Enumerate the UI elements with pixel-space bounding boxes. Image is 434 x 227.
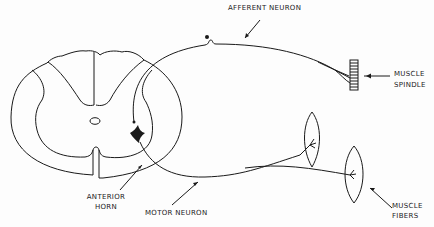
muscle-fiber-1 [305,112,320,167]
anterior-horn-label-line1: ANTERIOR [80,193,132,202]
spindle-stripes [350,63,358,87]
muscle-fibers-label-line2: FIBERS [392,212,418,221]
dorsal-horn-left [48,62,94,105]
muscle-spindle-label-line2: SPINDLE [394,81,426,90]
motor-neuron-label: MOTOR NEURON [145,209,207,218]
motor-neuron-path [140,142,310,177]
diagram-drawing [0,0,434,227]
afferent-neuron-path [133,40,350,122]
afferent-neuron-label: AFFERENT NEURON [228,4,301,13]
motor-neuron-cell-body [130,125,145,143]
central-canal [90,118,100,125]
dorsal-horn-right [96,60,144,105]
grey-matter [32,70,153,158]
afferent-terminal [133,121,136,124]
reflex-arc-diagram: AFFERENT NEURON MUSCLE SPINDLE ANTERIOR … [0,0,434,227]
afferent-cell-body [205,35,209,39]
muscle-spindle-label-line1: MUSCLE [394,70,425,79]
spinal-cord-outline [11,51,182,178]
anterior-horn-label-line2: HORN [80,203,132,212]
muscle-fibers-label-line1: MUSCLE [392,202,423,211]
